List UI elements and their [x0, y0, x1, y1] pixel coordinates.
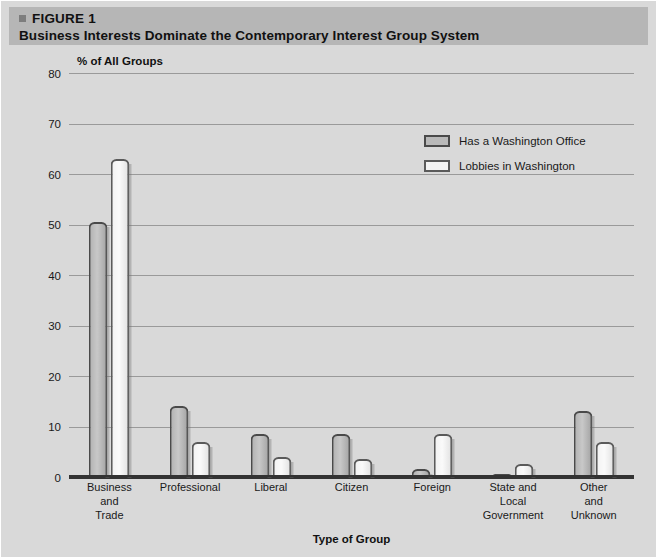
bar: [250, 434, 269, 477]
square-bullet-icon: [19, 15, 26, 22]
legend-item: Lobbies in Washington: [424, 156, 586, 176]
bar-group: [150, 73, 231, 477]
bar: [192, 442, 211, 477]
legend-item: Has a Washington Office: [424, 131, 586, 151]
bar-group: [230, 73, 311, 477]
y-axis-tick-label: 60: [48, 169, 61, 181]
figure-number-line: FIGURE 1: [19, 10, 648, 26]
bar: [573, 411, 592, 477]
x-axis-tick-label: Professional: [150, 481, 231, 522]
x-axis-tick-label: State andLocalGovernment: [473, 481, 554, 522]
y-axis-tick-label: 50: [48, 219, 61, 231]
y-axis-tick-label: 70: [48, 118, 61, 130]
figure-number-label: FIGURE 1: [32, 11, 96, 26]
figure-header-band: FIGURE 1 Business Interests Dominate the…: [9, 7, 648, 45]
figure-container: FIGURE 1 Business Interests Dominate the…: [0, 0, 657, 558]
chart-legend: Has a Washington OfficeLobbies in Washin…: [424, 131, 586, 181]
bar: [434, 434, 453, 477]
bar: [331, 434, 350, 477]
y-axis-tick-label: 80: [48, 68, 61, 80]
figure-title: Business Interests Dominate the Contempo…: [19, 28, 648, 43]
legend-label: Has a Washington Office: [459, 135, 586, 147]
bar: [89, 222, 108, 477]
y-axis-title: % of All Groups: [77, 55, 163, 67]
x-axis-tick-label: Foreign: [392, 481, 473, 522]
x-axis-tick-labels: BusinessandTradeProfessionalLiberalCitiz…: [69, 481, 634, 522]
x-axis-tick-label: Liberal: [230, 481, 311, 522]
legend-swatch: [424, 160, 450, 172]
bar: [170, 406, 189, 477]
legend-swatch: [424, 135, 450, 147]
bar-group: [311, 73, 392, 477]
y-axis-tick-label: 10: [48, 421, 61, 433]
bar: [595, 442, 614, 477]
bar-group: [69, 73, 150, 477]
chart-panel: % of All Groups 01020304050607080 Busine…: [9, 47, 648, 549]
x-axis-tick-label: OtherandUnknown: [553, 481, 634, 522]
x-axis-tick-label: BusinessandTrade: [69, 481, 150, 522]
x-axis-tick-label: Citizen: [311, 481, 392, 522]
y-axis-tick-label: 30: [48, 320, 61, 332]
y-axis-tick-label: 0: [55, 472, 61, 484]
legend-label: Lobbies in Washington: [459, 160, 575, 172]
x-axis-title: Type of Group: [69, 533, 634, 545]
y-axis-tick-label: 20: [48, 371, 61, 383]
x-axis-line: [69, 475, 634, 477]
bar: [111, 159, 130, 477]
y-axis-tick-label: 40: [48, 270, 61, 282]
bar: [272, 457, 291, 477]
